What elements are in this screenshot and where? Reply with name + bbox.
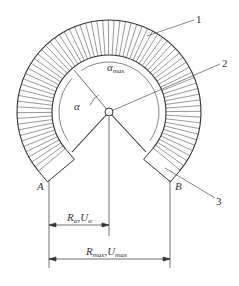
callout-1: 1 xyxy=(196,14,202,25)
point-a-label: A xyxy=(37,181,44,192)
point-b-label: B xyxy=(175,181,182,192)
callout-3: 3 xyxy=(216,196,222,207)
alpha-label: α xyxy=(74,101,80,112)
callout-lines xyxy=(109,20,220,198)
diagram: 1 2 3 A B α αmax Rα,Uα Rmax,Umax xyxy=(0,0,239,286)
potentiometer-drawing xyxy=(0,0,239,286)
alpha-max-label: αmax xyxy=(107,62,124,75)
rmax-umax-label: Rmax,Umax xyxy=(86,246,127,259)
callout-2: 2 xyxy=(222,58,228,69)
ra-ua-label: Rα,Uα xyxy=(67,212,92,225)
pivot-icon xyxy=(105,108,113,116)
